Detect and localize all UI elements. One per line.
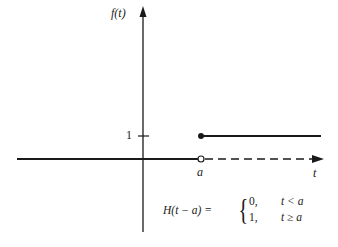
left-brace-icon: { [238,192,248,226]
case-condition-1: t ≥ a [281,211,302,223]
formula-lhs: H(t − a) = [163,204,212,216]
case-value-0: 0, [249,195,258,207]
open-dot-icon [198,156,204,162]
closed-dot-icon [198,133,204,139]
x-axis-arrow-icon [312,155,324,163]
x-point-label: a [197,165,203,180]
case-value-1: 1, [249,211,258,223]
y-tick-label: 1 [126,128,132,143]
y-axis-label: f(t) [111,6,126,21]
heaviside-formula: H(t − a) = { 0, t < a 1, t ≥ a [163,194,313,228]
y-axis-arrow-icon [140,6,147,17]
x-axis-label: t [313,166,316,181]
case-condition-0: t < a [281,195,303,207]
